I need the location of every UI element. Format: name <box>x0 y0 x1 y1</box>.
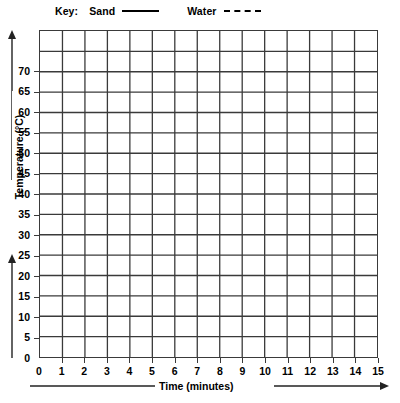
legend-key-label: Key: <box>55 5 78 17</box>
y-axis-tick-label: 25 <box>10 250 30 261</box>
y-axis-tick-label: 0 <box>10 353 30 364</box>
x-axis-title: Time (minutes) <box>155 379 237 393</box>
y-axis-tick-mark <box>34 92 39 93</box>
y-axis-tick-mark <box>34 153 39 154</box>
y-axis-tick-mark <box>34 215 39 216</box>
y-axis-tick-mark <box>34 235 39 236</box>
x-axis-tick-mark <box>378 358 379 363</box>
legend-swatch-solid-line-icon <box>122 10 159 12</box>
y-axis-tick-label: 20 <box>10 271 30 282</box>
y-axis-tick-mark <box>34 71 39 72</box>
y-axis-tick-mark <box>34 276 39 277</box>
legend-label-sand: Sand <box>89 5 115 17</box>
chart-legend: Key: Sand Water <box>55 3 261 19</box>
y-axis-tick-label: 50 <box>10 148 30 159</box>
x-axis-tick-label: 4 <box>118 366 140 377</box>
x-axis-tick-label: 8 <box>209 366 231 377</box>
x-axis-tick-mark <box>62 358 63 363</box>
y-axis-tick-mark <box>34 297 39 298</box>
legend-entry-sand: Sand <box>89 5 159 17</box>
x-axis-tick-mark <box>107 358 108 363</box>
chart-plot-area <box>39 30 378 358</box>
x-axis-tick-label: 13 <box>322 366 344 377</box>
x-axis-tick-label: 3 <box>96 366 118 377</box>
x-axis-tick-mark <box>242 358 243 363</box>
x-axis-tick-mark <box>288 358 289 363</box>
x-axis-tick-label: 15 <box>367 366 389 377</box>
x-axis-tick-label: 11 <box>277 366 299 377</box>
legend-entry-water: Water <box>187 5 260 17</box>
x-axis-tick-label: 6 <box>164 366 186 377</box>
y-axis-tick-label: 70 <box>10 66 30 77</box>
x-axis-tick-mark <box>310 358 311 363</box>
x-axis-tick-mark <box>129 358 130 363</box>
y-axis-tick-mark <box>34 194 39 195</box>
x-axis-tick-label: 7 <box>186 366 208 377</box>
x-axis-tick-label: 9 <box>231 366 253 377</box>
x-axis-tick-label: 14 <box>344 366 366 377</box>
x-axis-tick-mark <box>355 358 356 363</box>
y-axis-tick-label: 10 <box>10 312 30 323</box>
y-axis-tick-label: 35 <box>10 209 30 220</box>
y-axis-tick-label: 5 <box>10 332 30 343</box>
x-axis-tick-label: 2 <box>73 366 95 377</box>
x-axis-tick-mark <box>152 358 153 363</box>
y-axis-tick-mark <box>34 317 39 318</box>
y-axis-tick-mark <box>34 256 39 257</box>
y-axis-tick-label: 60 <box>10 107 30 118</box>
x-axis-tick-mark <box>84 358 85 363</box>
x-axis-tick-label: 12 <box>299 366 321 377</box>
x-axis-tick-mark <box>220 358 221 363</box>
x-axis-tick-mark <box>265 358 266 363</box>
x-axis-tick-label: 1 <box>51 366 73 377</box>
y-axis-tick-mark <box>34 112 39 113</box>
legend-label-water: Water <box>187 5 216 17</box>
x-axis-tick-label: 5 <box>141 366 163 377</box>
x-axis-tick-label: 10 <box>254 366 276 377</box>
y-axis-tick-label: 55 <box>10 127 30 138</box>
y-axis-tick-label: 45 <box>10 168 30 179</box>
chart-gridlines <box>40 31 377 357</box>
y-axis-tick-label: 40 <box>10 189 30 200</box>
x-axis-tick-mark <box>333 358 334 363</box>
legend-swatch-dashed-line-icon <box>224 10 261 12</box>
y-axis-tick-label: 15 <box>10 291 30 302</box>
y-axis-tick-mark <box>34 338 39 339</box>
y-axis-tick-mark <box>34 133 39 134</box>
y-axis-tick-label: 65 <box>10 86 30 97</box>
x-axis-tick-mark <box>175 358 176 363</box>
y-axis-tick-mark <box>34 174 39 175</box>
x-axis-tick-label: 0 <box>28 366 50 377</box>
x-axis-tick-mark <box>197 358 198 363</box>
y-axis-tick-label: 30 <box>10 230 30 241</box>
